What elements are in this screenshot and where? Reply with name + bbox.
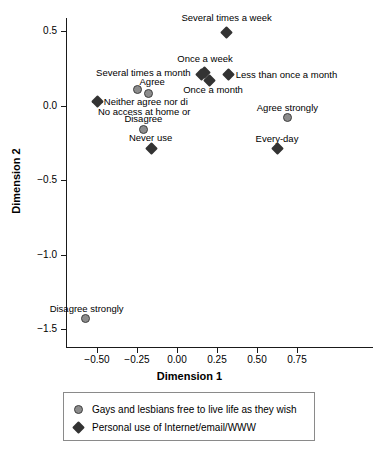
- data-point-marker: [222, 68, 235, 81]
- x-tick: [217, 348, 218, 353]
- x-tick: [97, 348, 98, 353]
- x-tick-label: 0.75: [274, 354, 320, 365]
- diamond-marker-icon: [72, 421, 85, 434]
- data-point-marker: [144, 89, 153, 98]
- y-tick: [61, 180, 66, 181]
- y-tick-label: 0.0: [17, 100, 57, 111]
- point-label: Agree strongly: [257, 102, 318, 113]
- y-tick: [61, 329, 66, 330]
- y-tick-label: −0.5: [17, 174, 57, 185]
- legend-item-label: Gays and lesbians free to live life as t…: [92, 404, 297, 415]
- x-axis-line: [66, 347, 373, 348]
- y-tick: [61, 255, 66, 256]
- y-tick: [61, 31, 66, 32]
- y-tick: [61, 106, 66, 107]
- y-axis-title: Dimension 2: [10, 111, 22, 251]
- legend: Gays and lesbians free to live life as t…: [63, 392, 315, 441]
- point-label: Disagree strongly: [50, 303, 124, 314]
- point-label: Once a month: [183, 84, 243, 95]
- x-tick: [257, 348, 258, 353]
- data-point-marker: [81, 314, 90, 323]
- legend-item: Personal use of Internet/email/WWW: [74, 419, 256, 435]
- x-axis-title: Dimension 1: [0, 370, 379, 382]
- x-tick: [177, 348, 178, 353]
- legend-item-label: Personal use of Internet/email/WWW: [92, 422, 256, 433]
- y-tick-label: 0.5: [17, 25, 57, 36]
- data-point-marker: [139, 125, 148, 134]
- data-point-marker: [133, 85, 142, 94]
- point-label: Less than once a month: [236, 69, 337, 80]
- x-tick: [137, 348, 138, 353]
- data-point-marker: [145, 142, 158, 155]
- circle-marker-icon: [74, 405, 83, 414]
- y-tick-label: −1.5: [17, 323, 57, 334]
- data-point-marker: [220, 26, 233, 39]
- point-label: Several times a week: [181, 12, 271, 23]
- data-point-marker: [283, 113, 292, 122]
- x-tick: [297, 348, 298, 353]
- scatter-plot: 0.50.0−0.5−1.0−1.5 −0.50−0.250.000.250.5…: [0, 0, 379, 454]
- point-label: Disagree: [124, 113, 162, 124]
- point-label: Once a week: [177, 53, 232, 64]
- data-point-marker: [271, 142, 284, 155]
- point-label: Agree: [140, 76, 165, 87]
- y-tick-label: −1.0: [17, 249, 57, 260]
- legend-item: Gays and lesbians free to live life as t…: [74, 401, 297, 417]
